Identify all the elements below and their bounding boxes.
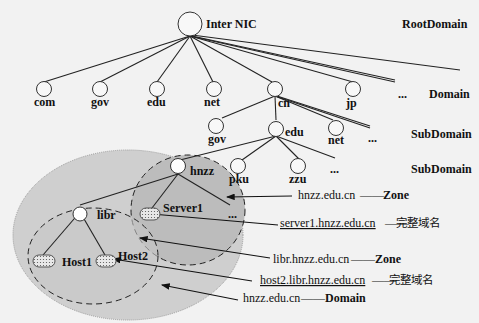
annotation-1: hnzz.edu.cn —— Zone bbox=[298, 188, 410, 202]
tld-cn: cn bbox=[278, 96, 290, 110]
node-host2 bbox=[96, 255, 116, 267]
annotation-name: host2.libr.hnzz.edu.cn bbox=[260, 273, 365, 287]
annotation-3: libr.hnzz.edu.cn —— Zone bbox=[273, 252, 402, 266]
node-cn-edu bbox=[269, 122, 284, 137]
tld-gov: gov bbox=[91, 95, 109, 109]
level-rootdomain: RootDomain bbox=[402, 17, 468, 31]
tld-net: net bbox=[204, 95, 220, 109]
annotation-name: hnzz.edu.cn bbox=[243, 291, 300, 305]
annotation-name: libr.hnzz.edu.cn bbox=[273, 252, 349, 266]
dns-hierarchy-diagram: Inter NIC RootDomain com gov edu net cn … bbox=[0, 0, 479, 323]
hnzz-server1: Server1 bbox=[163, 201, 203, 215]
annotation-name: server1.hnzz.edu.cn bbox=[280, 216, 376, 230]
edu-hnzz: hnzz bbox=[190, 164, 215, 178]
annotation-type: Zone bbox=[383, 188, 410, 202]
edu-zzu: zzu bbox=[289, 172, 307, 186]
cn-gov: gov bbox=[208, 132, 226, 146]
edu-more: ... bbox=[330, 162, 339, 176]
tld-edu: edu bbox=[147, 95, 166, 109]
libr-host1: Host1 bbox=[62, 255, 92, 269]
edu-pku: pku bbox=[229, 172, 249, 186]
hnzz-more: ... bbox=[228, 207, 237, 221]
node-libr bbox=[73, 207, 87, 221]
tld-more: ... bbox=[398, 87, 407, 101]
root-label: Inter NIC bbox=[206, 17, 257, 31]
annotation-dash: —— bbox=[359, 188, 385, 202]
node-cn bbox=[268, 82, 283, 97]
node-hnzz bbox=[171, 159, 186, 174]
tld-com: com bbox=[34, 95, 55, 109]
annotation-type: Domain bbox=[325, 291, 366, 305]
annotation-name: hnzz.edu.cn bbox=[298, 188, 355, 202]
node-host1 bbox=[33, 255, 55, 267]
annotation-4: host2.libr.hnzz.edu.cn —— 完整域名 bbox=[260, 273, 433, 287]
annotation-5: hnzz.edu.cn —— Domain bbox=[243, 291, 366, 305]
level-domain: Domain bbox=[429, 87, 470, 101]
annotation-type: 完整域名 bbox=[396, 216, 440, 230]
node-jp bbox=[346, 82, 361, 97]
hnzz-libr: libr bbox=[97, 208, 116, 222]
level-subdomain-2: SubDomain bbox=[411, 162, 472, 176]
annotation-dash: —— bbox=[350, 252, 376, 266]
annotation-type: Zone bbox=[375, 252, 402, 266]
level-subdomain-1: SubDomain bbox=[411, 127, 472, 141]
cn-net: net bbox=[328, 133, 344, 147]
root-node bbox=[178, 12, 202, 36]
libr-host2: Host2 bbox=[118, 249, 148, 263]
annotation-2: server1.hnzz.edu.cn —— 完整域名 bbox=[280, 216, 440, 230]
cn-more: ... bbox=[368, 131, 377, 145]
annotation-dash: —— bbox=[300, 291, 326, 305]
cn-edu: edu bbox=[285, 125, 304, 139]
tld-jp: jp bbox=[345, 96, 357, 110]
node-server1 bbox=[140, 208, 160, 220]
annotation-type: 完整域名 bbox=[389, 273, 433, 287]
